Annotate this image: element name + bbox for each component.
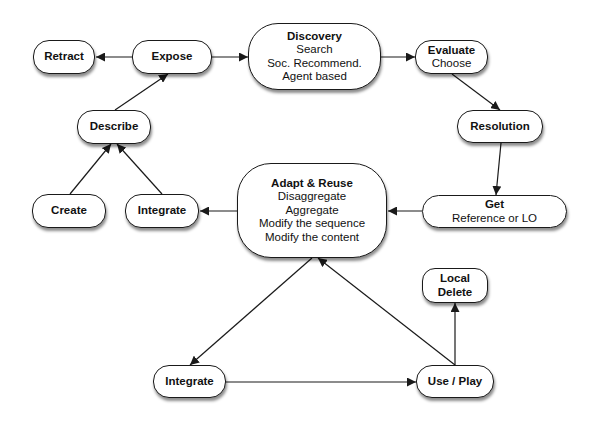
node-line: Choose: [432, 57, 472, 71]
node-expose: Expose: [132, 40, 212, 74]
node-title: Integrate: [138, 204, 187, 218]
node-integrate-top: Integrate: [125, 194, 199, 228]
node-adapt-reuse: Adapt & Reuse Disaggregate Aggregate Mod…: [237, 163, 387, 258]
node-line: Agent based: [282, 70, 347, 84]
node-title: Describe: [90, 120, 139, 134]
node-title: Expose: [152, 50, 193, 64]
node-title: Integrate: [165, 375, 214, 389]
node-line: Disaggregate: [278, 190, 346, 204]
node-line: Delete: [438, 286, 473, 300]
node-retract: Retract: [33, 40, 95, 74]
edge-integrate-describe: [117, 144, 162, 194]
edge-evaluate-resolution: [452, 74, 500, 110]
node-title: Adapt & Reuse: [271, 177, 353, 191]
node-create: Create: [32, 194, 106, 228]
node-title: Get: [485, 198, 504, 212]
node-describe: Describe: [77, 110, 151, 144]
node-title: Discovery: [287, 30, 342, 44]
node-line: Modify the content: [265, 231, 359, 245]
edge-resolution-get: [496, 143, 501, 195]
node-title: Retract: [44, 50, 84, 64]
node-title: Evaluate: [428, 44, 475, 58]
node-line: Modify the sequence: [259, 217, 365, 231]
node-use-play: Use / Play: [416, 365, 494, 398]
node-line: Reference or LO: [452, 212, 537, 226]
node-title: Use / Play: [428, 375, 482, 389]
node-resolution: Resolution: [457, 110, 543, 143]
node-line: Aggregate: [285, 204, 338, 218]
edge-create-describe: [70, 144, 111, 194]
node-discovery: Discovery Search Soc. Recommend. Agent b…: [248, 23, 381, 90]
node-title: Create: [51, 204, 87, 218]
node-line: Search: [296, 43, 332, 57]
node-local-delete: Local Delete: [422, 268, 488, 303]
node-line: Soc. Recommend.: [267, 57, 362, 71]
node-integrate-bottom: Integrate: [153, 365, 226, 398]
edge-describe-expose: [115, 74, 168, 110]
node-get: Get Reference or LO: [422, 195, 567, 228]
edge-adapt-integrate-bottom: [190, 258, 312, 365]
node-evaluate: Evaluate Choose: [415, 40, 488, 74]
node-title: Local: [440, 272, 470, 286]
node-title: Resolution: [470, 120, 529, 134]
